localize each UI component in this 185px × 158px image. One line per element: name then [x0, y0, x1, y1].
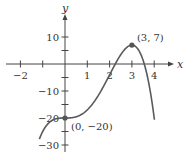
x-tick-label: 4: [151, 70, 157, 81]
point-marker: [62, 115, 67, 120]
y-tick-label: 10: [46, 32, 59, 43]
function-plot: xy−21234−30−20−1010 (3, 7)(0, −20): [0, 0, 185, 158]
y-axis-label: y: [61, 2, 69, 15]
point-label: (0, −20): [71, 121, 113, 132]
x-tick-label: −2: [13, 70, 28, 81]
x-axis-label: x: [177, 58, 184, 71]
x-tick-label: 1: [84, 70, 90, 81]
y-tick-label: −10: [38, 86, 59, 97]
y-tick-label: −30: [38, 140, 59, 151]
point-label: (3, 7): [137, 32, 164, 43]
x-tick-label: 3: [129, 70, 135, 81]
point-marker: [129, 43, 134, 48]
x-axis-arrow-icon: [168, 62, 174, 67]
